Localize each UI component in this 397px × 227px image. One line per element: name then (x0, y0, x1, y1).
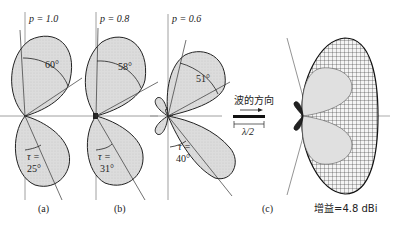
beam-angle-label: 51° (196, 73, 210, 84)
lower-lobe (15, 116, 69, 186)
lower-lobe (87, 116, 143, 185)
wave-direction-indicator: 波的方向 λ/2 (233, 94, 274, 137)
caption-c: (c) (262, 203, 273, 215)
tau-value: 40° (176, 153, 190, 164)
tau-label: τ = (178, 141, 191, 152)
half-wavelength-label: λ/2 (241, 126, 254, 137)
cone-edge-line (287, 137, 303, 195)
wave-direction-label: 波的方向 (234, 94, 274, 106)
cone-edge-line (287, 38, 303, 97)
upper-lobe (85, 37, 145, 116)
p-label: p = 1.0 (28, 13, 58, 24)
arrow-right-icon (258, 108, 263, 112)
panel-c: p = 0.6 51° τ = 40° (c) (150, 13, 273, 215)
mesh-surface (302, 38, 378, 194)
tau-label: τ = (27, 151, 40, 162)
p-label: p = 0.8 (99, 13, 129, 24)
panel-a: p = 1.0 60° τ = 25° (a) (0, 12, 82, 215)
caption-b: (b) (114, 203, 126, 215)
beam-angle-label: 60° (45, 59, 59, 70)
back-lobe-lower (155, 116, 168, 135)
tau-value: 25° (27, 163, 41, 174)
beam-angle-label: 58° (118, 61, 132, 72)
antenna-pattern-figure: p = 1.0 60° τ = 25° (a) p = 0.8 58° τ = … (0, 0, 397, 227)
pattern-3d: 增益=4.8 dBi (287, 38, 390, 214)
antenna-element (233, 115, 265, 118)
tau-value: 31° (100, 163, 114, 174)
gain-label: 增益=4.8 dBi (314, 202, 377, 214)
panel-b: p = 0.8 58° τ = 31° (b) (80, 12, 158, 215)
caption-a: (a) (38, 203, 49, 215)
p-label: p = 0.6 (171, 13, 201, 24)
tau-label: τ = (98, 151, 111, 162)
